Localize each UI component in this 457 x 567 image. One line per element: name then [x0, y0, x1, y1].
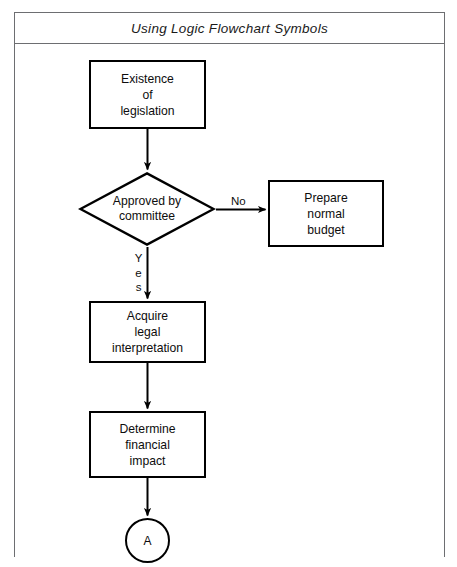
edge-label-no: No: [231, 195, 246, 207]
edge-label-yes-char-3: s: [133, 280, 144, 295]
connector-node-a[interactable]: A: [125, 518, 170, 563]
node-label: Prepare normal budget: [304, 190, 347, 238]
edge-label-yes-char-1: Y: [133, 251, 144, 266]
flowchart-page: Using Logic Flowchart Symbols Existence …: [0, 0, 457, 567]
node-label: A: [143, 534, 151, 548]
process-node-prepare-normal-budget[interactable]: Prepare normal budget: [268, 180, 384, 247]
process-node-existence-of-legislation[interactable]: Existence of legislation: [89, 60, 206, 129]
node-label: Approved by committee: [78, 171, 216, 247]
process-node-acquire-legal-interpretation[interactable]: Acquire legal interpretation: [89, 301, 206, 363]
node-label: Determine financial impact: [119, 421, 175, 469]
node-label: Acquire legal interpretation: [112, 308, 183, 356]
edge-label-yes: Y e s: [133, 251, 144, 295]
edge-label-yes-char-2: e: [133, 266, 144, 281]
flowchart-canvas: Existence of legislation Approved by com…: [0, 0, 457, 567]
process-node-determine-financial-impact[interactable]: Determine financial impact: [89, 411, 206, 478]
decision-node-approved-by-committee[interactable]: Approved by committee: [78, 171, 216, 247]
node-label: Existence of legislation: [120, 71, 174, 119]
flowchart-connectors: [0, 0, 457, 567]
